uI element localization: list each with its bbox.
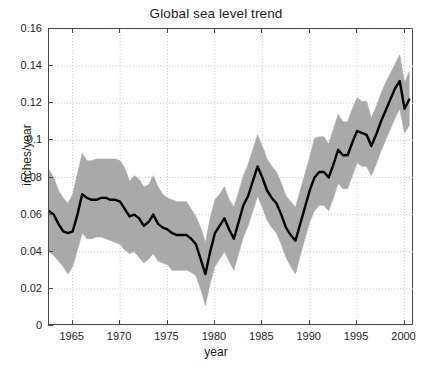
x-tick-mark xyxy=(309,320,310,325)
x-tick-mark-top xyxy=(119,28,120,33)
y-tick-label: 0.14 xyxy=(0,59,42,71)
y-tick-mark xyxy=(48,177,53,178)
y-tick-mark xyxy=(48,214,53,215)
chart-title: Global sea level trend xyxy=(0,6,432,21)
x-tick-mark-top xyxy=(167,28,168,33)
y-tick-label: 0 xyxy=(0,319,42,331)
x-tick-mark xyxy=(356,320,357,325)
plot-area xyxy=(48,28,413,325)
x-tick-mark-top xyxy=(356,28,357,33)
y-tick-mark xyxy=(48,288,53,289)
x-tick-mark xyxy=(72,320,73,325)
y-tick-label: 0.16 xyxy=(0,22,42,34)
plot-svg xyxy=(49,29,414,326)
x-tick-mark xyxy=(167,320,168,325)
y-tick-mark xyxy=(48,65,53,66)
y-tick-mark xyxy=(48,325,53,326)
x-tick-mark xyxy=(261,320,262,325)
x-tick-mark-top xyxy=(261,28,262,33)
y-tick-mark xyxy=(48,102,53,103)
x-tick-mark-top xyxy=(404,28,405,33)
x-tick-mark-top xyxy=(309,28,310,33)
x-tick-mark xyxy=(404,320,405,325)
x-tick-label: 2000 xyxy=(374,330,432,342)
chart-figure: Global sea level trend 00.020.040.060.08… xyxy=(0,0,432,367)
x-tick-mark xyxy=(119,320,120,325)
uncertainty-band xyxy=(49,55,409,306)
x-tick-mark-top xyxy=(214,28,215,33)
y-axis-label: inches/year xyxy=(20,95,34,215)
x-tick-mark xyxy=(214,320,215,325)
x-axis-label: year xyxy=(0,345,432,359)
y-tick-label: 0.02 xyxy=(0,282,42,294)
y-tick-mark xyxy=(48,251,53,252)
y-tick-mark xyxy=(48,28,53,29)
y-tick-label: 0.04 xyxy=(0,245,42,257)
y-tick-mark xyxy=(48,139,53,140)
x-tick-mark-top xyxy=(72,28,73,33)
